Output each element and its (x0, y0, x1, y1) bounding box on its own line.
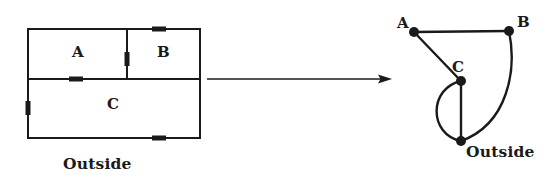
graph-node-label-c: C (452, 60, 464, 75)
edge-b-outside (461, 31, 512, 141)
graph-node-b[interactable] (504, 26, 514, 36)
plan-outer-wall (28, 29, 200, 138)
graph-node-label-outside: Outside (466, 144, 535, 160)
plan-room-label-c: C (107, 97, 119, 112)
plan-room-label-a: A (72, 45, 84, 60)
graph-node-c[interactable] (456, 76, 466, 86)
edge-a-b (414, 31, 509, 32)
graph-node-outside[interactable] (456, 136, 466, 146)
floor-plan-walls (28, 29, 200, 138)
floor-plan-doors (28, 29, 166, 138)
graph-node-a[interactable] (409, 27, 419, 37)
figure-floor-plan-to-graph: A B C Outside A B C Outside (0, 0, 558, 191)
graph-node-label-a: A (397, 16, 409, 31)
plan-outside-caption: Outside (63, 156, 132, 172)
transformation-arrow (207, 74, 392, 83)
plan-room-label-b: B (157, 45, 170, 60)
edge-c-outside-curve (437, 81, 461, 141)
graph-node-label-b: B (517, 15, 530, 30)
graph-edges (414, 31, 512, 141)
